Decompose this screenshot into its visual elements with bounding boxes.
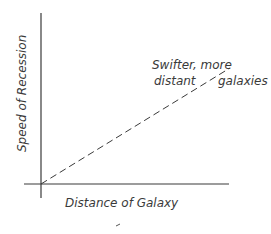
x-axis-label: Distance of Galaxy [65, 196, 179, 210]
chart: Speed of Recession Distance of Galaxy Sw… [0, 0, 271, 234]
annotation-line-1: Swifter, more [152, 58, 232, 72]
series-layer [41, 68, 230, 184]
series-line-0 [41, 68, 230, 184]
stray-mark [116, 224, 120, 226]
annotation-line-2-left: distant [154, 74, 197, 88]
annotation-line-2-right: galaxies [218, 74, 268, 88]
y-axis-label: Speed of Recession [15, 35, 29, 152]
